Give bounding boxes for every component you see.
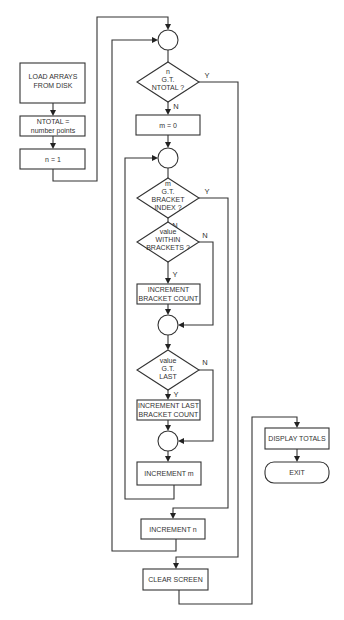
- node-increment-n: INCREMENT n: [141, 519, 205, 539]
- decision-value-gt-last: value G.T. LAST: [137, 350, 199, 390]
- connector-node-circle-1: [158, 30, 178, 50]
- connector-node-circle-3: [158, 315, 178, 335]
- branch-label-no: N: [202, 358, 207, 367]
- arrow-icon: [152, 37, 158, 43]
- node-text: BRACKET COUNT: [139, 411, 199, 418]
- node-text: number points: [31, 127, 76, 135]
- branch-label-yes: Y: [204, 71, 209, 80]
- branch-label-yes: Y: [173, 390, 178, 399]
- node-text: INCREMENT: [148, 286, 190, 293]
- arrow-icon: [165, 456, 171, 462]
- node-clear-screen: CLEAR SCREEN: [143, 569, 208, 590]
- arrow-icon: [165, 109, 171, 115]
- arrow-icon: [178, 438, 184, 444]
- node-text: n: [166, 68, 170, 75]
- connector-dec-n-yes: [176, 82, 238, 565]
- node-text: INCREMENT n: [149, 526, 196, 533]
- node-text: m: [165, 180, 171, 187]
- node-m-init: m = 0: [136, 115, 200, 135]
- decision-n-gt-ntotal: n G.T. NTOTAL ?: [137, 62, 199, 102]
- decision-m-gt-bracket-index: m G.T. BRACKET INDEX ?: [137, 178, 199, 218]
- node-text: FROM DISK: [34, 82, 73, 89]
- node-load-arrays: LOAD ARRAYS FROM DISK: [20, 63, 85, 103]
- node-text: BRACKET: [151, 196, 185, 203]
- node-text: EXIT: [289, 469, 305, 476]
- arrow-icon: [165, 24, 171, 30]
- arrow-icon: [294, 456, 300, 462]
- arrow-icon: [165, 344, 171, 350]
- node-text: WITHIN: [156, 236, 181, 243]
- node-text: G.T.: [162, 365, 175, 372]
- node-text: INCREMENT m: [144, 470, 193, 477]
- arrow-icon: [165, 142, 171, 148]
- node-increment-last-bracket-count: INCREMENT LAST BRACKET COUNT: [137, 400, 200, 420]
- arrow-icon: [165, 278, 171, 284]
- node-text: value: [160, 228, 177, 235]
- node-ntotal: NTOTAL = number points: [20, 116, 85, 136]
- connector-node-circle-2: [158, 148, 178, 168]
- node-text: n = 1: [45, 156, 61, 163]
- arrow-icon: [173, 563, 179, 569]
- node-text: NTOTAL ?: [152, 84, 185, 91]
- branch-label-no: N: [173, 102, 178, 111]
- node-increment-m: INCREMENT m: [137, 462, 201, 485]
- arrow-icon: [50, 143, 56, 149]
- node-text: value: [160, 357, 177, 364]
- node-n-init: n = 1: [20, 149, 85, 169]
- branch-label-yes: Y: [172, 270, 177, 279]
- node-text: INCREMENT LAST: [138, 402, 200, 409]
- arrow-icon: [165, 425, 171, 431]
- flowchart: LOAD ARRAYS FROM DISK NTOTAL = number po…: [0, 0, 344, 620]
- node-text: LOAD ARRAYS: [29, 73, 78, 80]
- arrow-icon: [50, 110, 56, 116]
- node-text: G.T.: [162, 188, 175, 195]
- decision-value-within-brackets: value WITHIN BRACKETS ?: [137, 222, 199, 262]
- node-text: G.T.: [162, 76, 175, 83]
- node-display-totals: DISPLAY TOTALS: [265, 428, 329, 449]
- connector-node-circle-4: [158, 431, 178, 451]
- node-text: BRACKET COUNT: [139, 295, 199, 302]
- arrow-icon: [152, 155, 158, 161]
- node-text: m = 0: [159, 122, 177, 129]
- node-text: LAST: [159, 373, 177, 380]
- node-text: CLEAR SCREEN: [148, 576, 202, 583]
- branch-label-yes: Y: [204, 187, 209, 196]
- arrow-icon: [165, 394, 171, 400]
- arrow-icon: [178, 322, 184, 328]
- node-text: INDEX ?: [154, 204, 181, 211]
- arrow-icon: [165, 309, 171, 315]
- node-text: DISPLAY TOTALS: [268, 435, 326, 442]
- node-text: BRACKETS ?: [146, 244, 190, 251]
- arrow-icon: [294, 422, 300, 428]
- node-exit: EXIT: [265, 462, 329, 483]
- node-text: NTOTAL =: [37, 118, 70, 125]
- node-increment-bracket-count: INCREMENT BRACKET COUNT: [137, 284, 200, 304]
- arrow-icon: [170, 513, 176, 519]
- branch-label-no: N: [202, 231, 207, 240]
